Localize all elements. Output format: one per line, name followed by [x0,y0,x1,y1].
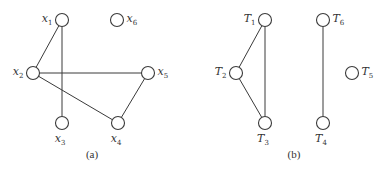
node-T4 [317,117,330,130]
label-subscript: 1 [48,19,52,27]
label-subscript: 2 [222,72,226,80]
node-label-T2: T2 [215,65,227,80]
label-subscript: 2 [19,72,23,80]
edge-x1-x2 [36,26,59,68]
edge-x4-x5 [121,79,144,118]
node-x2 [27,67,40,80]
node-label-x5: x5 [158,65,169,80]
label-subscript: 4 [117,139,122,147]
captions-layer: (a)(b) [86,148,301,161]
label-subscript: 5 [369,72,373,80]
node-T5 [346,67,359,80]
edge-T1-T2 [239,26,262,68]
label-subscript: 1 [251,19,255,27]
node-T2 [230,67,243,80]
caption-a: (a) [86,148,99,161]
node-label-T3: T3 [257,132,269,147]
edges-layer [36,26,323,120]
node-x4 [112,117,125,130]
node-T6 [317,14,330,27]
label-subscript: 3 [61,139,65,147]
node-label-x1: x1 [42,12,53,27]
node-T3 [259,117,272,130]
label-subscript: 3 [264,139,268,147]
node-label-T4: T4 [315,132,327,147]
node-x1 [56,14,69,27]
node-label-x6: x6 [127,12,138,27]
edge-T2-T3 [239,79,261,118]
node-T1 [259,14,272,27]
node-label-T5: T5 [362,65,374,80]
nodes-layer [27,14,359,130]
node-label-T6: T6 [333,12,345,27]
label-subscript: 5 [164,72,168,80]
caption-b: (b) [288,148,301,161]
edge-x2-x4 [39,76,113,119]
label-subscript: 4 [322,139,327,147]
graph-diagram-canvas: x1x2x3x4x5x6T1T2T3T4T5T6 (a)(b) [0,0,378,170]
node-label-T1: T1 [244,12,256,27]
label-subscript: 6 [340,19,345,27]
node-label-x3: x3 [55,132,66,147]
label-subscript: 6 [133,19,138,27]
node-x5 [142,67,155,80]
node-label-x4: x4 [111,132,122,147]
node-x3 [56,117,69,130]
node-x6 [111,14,124,27]
node-label-x2: x2 [13,65,24,80]
